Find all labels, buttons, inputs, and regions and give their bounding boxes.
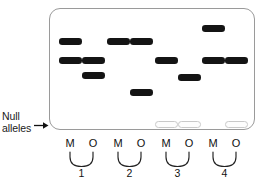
allele-band	[202, 57, 225, 64]
lane-label-lane-1-o: O	[82, 137, 104, 150]
allele-band	[59, 38, 82, 45]
allele-band	[130, 38, 153, 45]
lane-label-lane-2-o: O	[130, 137, 152, 150]
right-arrow-icon	[34, 116, 49, 125]
allele-band	[107, 38, 130, 45]
lane-label-lane-4-o: O	[225, 137, 247, 150]
allele-band	[202, 25, 225, 32]
group-number-1: 1	[70, 167, 94, 179]
allele-band	[82, 72, 105, 79]
lane-label-lane-3-m: M	[155, 137, 177, 150]
lane-label-lane-3-o: O	[178, 137, 200, 150]
lane-label-lane-1-m: M	[59, 137, 81, 150]
null-allele-band	[225, 121, 248, 128]
allele-band	[155, 57, 178, 64]
allele-band	[178, 74, 201, 81]
lane-label-lane-2-m: M	[107, 137, 129, 150]
gel-electrophoresis-figure: Null alleles MOMOMOMO 1234	[0, 0, 267, 184]
null-allele-band	[178, 121, 201, 128]
allele-band	[59, 57, 82, 64]
group-number-3: 3	[166, 167, 190, 179]
group-number-4: 4	[213, 167, 237, 179]
allele-band	[130, 89, 153, 96]
allele-band	[225, 57, 248, 64]
group-number-2: 2	[118, 167, 142, 179]
allele-band	[82, 57, 105, 64]
null-allele-band	[155, 121, 178, 128]
lane-label-lane-4-m: M	[202, 137, 224, 150]
